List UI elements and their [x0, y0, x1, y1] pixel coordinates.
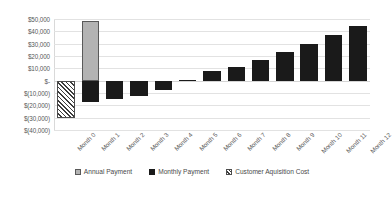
x-axis-tick-label: Month 6	[222, 131, 243, 152]
x-axis-tick-label: Month 4	[173, 131, 194, 152]
y-axis-tick-label: $30,000	[2, 40, 50, 47]
plot-area	[54, 19, 370, 130]
bar-slot	[200, 19, 224, 130]
legend-item[interactable]: Monthly Payment	[149, 168, 209, 175]
bar-slot	[78, 19, 102, 130]
annual-swatch	[75, 169, 81, 175]
legend-item[interactable]: Customer Aquisition Cost	[226, 168, 309, 175]
y-axis-tick-label: $-	[2, 77, 50, 84]
bar-slot	[273, 19, 297, 130]
x-axis-tick-label: Month 10	[320, 131, 344, 155]
monthly-payment-bar[interactable]	[349, 26, 366, 80]
x-axis-tick-label: Month 12	[369, 131, 392, 155]
legend-item-label: Annual Payment	[84, 168, 132, 175]
monthly-payment-bar[interactable]	[300, 44, 317, 81]
monthly-payment-bar[interactable]	[106, 81, 123, 100]
monthly-payment-bar[interactable]	[276, 52, 293, 80]
legend-item[interactable]: Annual Payment	[75, 168, 132, 175]
y-axis-tick-label: $(10,000)	[2, 90, 50, 97]
monthly-payment-bar[interactable]	[179, 80, 196, 81]
customer-acquisition-cost-bar[interactable]	[57, 81, 74, 118]
monthly-payment-bar[interactable]	[82, 81, 99, 103]
bar-slot	[103, 19, 127, 130]
x-axis-tick-label: Month 9	[295, 131, 316, 152]
x-axis-tick-labels: Month 0Month 1Month 2Month 3Month 4Month…	[54, 131, 370, 161]
monthly-payment-bar[interactable]	[252, 60, 269, 81]
y-axis-tick-label: $(30,000)	[2, 114, 50, 121]
x-axis-tick-label: Month 1	[100, 131, 121, 152]
bar-slot	[321, 19, 345, 130]
bar-slot	[127, 19, 151, 130]
y-axis-tick-label: $10,000	[2, 65, 50, 72]
y-axis-tick-label: $(20,000)	[2, 102, 50, 109]
x-axis-tick-label: Month 3	[149, 131, 170, 152]
y-axis-tick-label: $20,000	[2, 53, 50, 60]
bar-slot	[224, 19, 248, 130]
annual-payment-bar[interactable]	[82, 21, 99, 80]
monthly-payment-bar[interactable]	[203, 71, 220, 80]
monthly-payment-bar[interactable]	[228, 67, 245, 81]
legend-item-label: Monthly Payment	[158, 168, 209, 175]
legend-item-label: Customer Aquisition Cost	[235, 168, 309, 175]
x-axis-tick-label: Month 7	[246, 131, 267, 152]
chart-legend: Annual PaymentMonthly PaymentCustomer Aq…	[0, 168, 384, 175]
cac-swatch	[226, 169, 232, 175]
y-axis-tick-label: $(40,000)	[2, 127, 50, 134]
bar-slot	[297, 19, 321, 130]
x-axis-tick-label: Month 5	[197, 131, 218, 152]
bar-slot	[151, 19, 175, 130]
monthly-swatch	[149, 169, 155, 175]
x-axis-tick-label: Month 0	[76, 131, 97, 152]
x-axis-tick-label: Month 2	[124, 131, 145, 152]
bar-slot	[54, 19, 78, 130]
monthly-payment-bar[interactable]	[130, 81, 147, 96]
bar-slot	[176, 19, 200, 130]
monthly-payment-bar[interactable]	[155, 81, 172, 90]
y-axis-tick-label: $50,000	[2, 16, 50, 23]
monthly-payment-bar[interactable]	[325, 35, 342, 81]
x-axis-tick-label: Month 11	[344, 131, 367, 154]
x-axis-tick-label: Month 8	[270, 131, 291, 152]
y-axis-tick-label: $40,000	[2, 28, 50, 35]
bar-slot	[346, 19, 370, 130]
bar-slot	[248, 19, 272, 130]
